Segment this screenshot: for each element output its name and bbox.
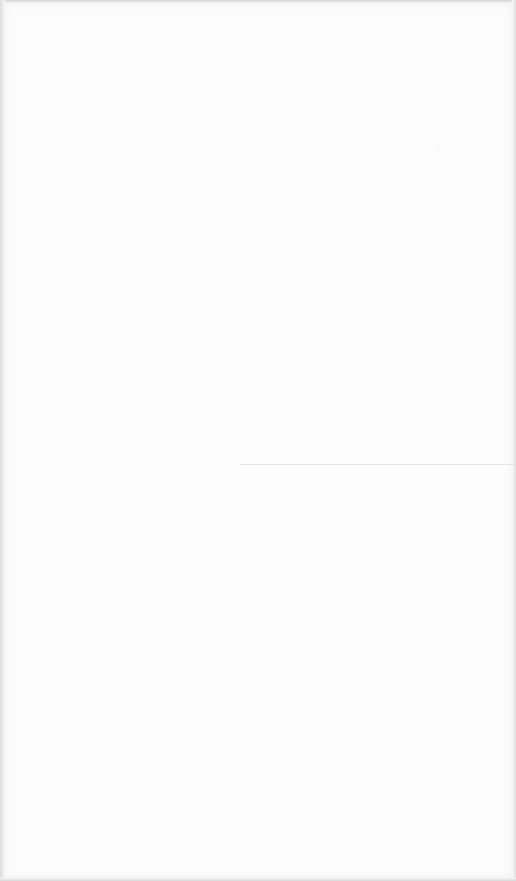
dust-speck <box>437 146 438 147</box>
blank-screen <box>0 0 516 881</box>
horizontal-divider <box>240 464 516 465</box>
top-edge-shadow <box>0 0 516 3</box>
left-edge-shadow <box>0 0 5 881</box>
right-edge-shadow <box>512 0 516 881</box>
